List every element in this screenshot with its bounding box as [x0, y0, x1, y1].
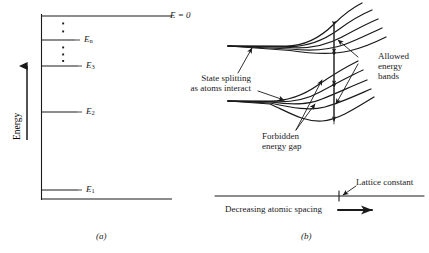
allowed-bands-line-1: Allowed — [378, 51, 409, 61]
allowed-bands-line-3: bands — [378, 71, 409, 81]
level-label-E3: E3 — [86, 60, 95, 71]
state-splitting-leader-lower — [258, 91, 284, 100]
ellipsis-above-En — [62, 23, 64, 33]
panel-a-graphics — [27, 14, 172, 200]
forbidden-gap-line-1: Forbidden — [262, 131, 302, 141]
forbidden-gap-line-2: energy gap — [262, 141, 302, 151]
forbidden-gap-leader-1 — [296, 80, 322, 130]
allowed-bands-leader-lower — [336, 64, 358, 104]
lattice-constant-leader — [343, 186, 356, 195]
upper-energy-band-curves — [228, 3, 386, 54]
state-splitting-label: State splitting as atoms interact — [159, 73, 251, 93]
forbidden-energy-gap-label: Forbidden energy gap — [262, 131, 302, 151]
upper-band-curve-4 — [228, 28, 382, 50]
state-splitting-line-2: as atoms interact — [159, 83, 251, 93]
level-label-E0: E = 0 — [170, 10, 191, 20]
panel-b-caption: (b) — [301, 231, 312, 241]
upper-band-curve-1 — [228, 3, 362, 46]
state-splitting-leader-upper — [238, 48, 252, 73]
allowed-bands-line-2: energy — [378, 61, 409, 71]
upper-band-curve-5 — [228, 37, 386, 54]
allowed-energy-bands-label: Allowed energy bands — [378, 51, 409, 81]
upper-band-curve-2 — [228, 10, 372, 47]
energy-axis-label: Energy — [12, 113, 22, 140]
state-splitting-line-1: State splitting — [159, 73, 251, 83]
level-label-E2: E2 — [86, 106, 95, 117]
level-label-En: En — [84, 34, 93, 45]
lattice-constant-label: Lattice constant — [356, 177, 413, 187]
x-axis-label: Decreasing atomic spacing — [225, 204, 322, 214]
panel-a-caption: (a) — [96, 231, 107, 241]
level-label-E1: E1 — [86, 184, 95, 195]
ellipsis-below-En — [62, 47, 64, 62]
energy-band-figure: E = 0 En E3 E2 E1 Energy State splitting… — [0, 0, 429, 253]
figure-vector-canvas — [0, 0, 429, 253]
